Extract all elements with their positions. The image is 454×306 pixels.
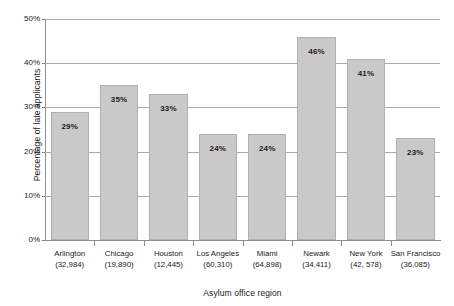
x-tick-mark xyxy=(292,241,293,246)
x-category-name: Arlington xyxy=(54,249,85,258)
x-category-count: (36,085) xyxy=(391,259,440,270)
x-category-count: (19,890) xyxy=(94,259,143,270)
plot-area: 29%35%33%24%24%46%41%23% xyxy=(45,19,440,240)
x-category-count: (12,445) xyxy=(144,259,193,270)
x-axis-category-labels: Arlington(32,984)Chicago(19,890)Houston(… xyxy=(45,248,440,280)
y-tick-label: 0% xyxy=(4,236,40,244)
y-tick-label: 40% xyxy=(4,59,40,67)
x-category-label: New York(42, 578) xyxy=(341,248,390,270)
bar-value-label: 33% xyxy=(150,104,186,113)
bar[interactable]: 33% xyxy=(149,94,187,240)
y-tick-label: 50% xyxy=(4,15,40,23)
x-category-name: New York xyxy=(349,249,382,258)
bar-value-label: 35% xyxy=(101,95,137,104)
x-category-count: (32,984) xyxy=(45,259,94,270)
bar-value-label: 23% xyxy=(397,148,433,157)
y-tick-label: 20% xyxy=(4,148,40,156)
x-category-name: Newark xyxy=(303,249,329,258)
x-category-name: Houston xyxy=(154,249,183,258)
bar-value-label: 24% xyxy=(249,144,285,153)
x-category-name: Los Angeles xyxy=(197,249,239,258)
y-tick-label: 30% xyxy=(4,103,40,111)
x-tick-mark xyxy=(243,241,244,246)
bar-slot: 29% xyxy=(51,19,89,240)
bar-value-label: 24% xyxy=(200,144,236,153)
x-category-name: San Francisco xyxy=(391,249,441,258)
bar-chart: Percentage of late applicants 0%10%20%30… xyxy=(0,0,454,306)
x-category-label: Arlington(32,984) xyxy=(45,248,94,270)
x-tick-mark xyxy=(144,241,145,246)
bar-slot: 35% xyxy=(100,19,138,240)
bar[interactable]: 24% xyxy=(199,134,237,240)
y-tick-label: 10% xyxy=(4,192,40,200)
x-axis-title: Asylum office region xyxy=(45,288,440,298)
x-category-count: (42, 578) xyxy=(341,259,390,270)
x-category-label: Chicago(19,890) xyxy=(94,248,143,270)
x-category-count: (64,898) xyxy=(243,259,292,270)
x-category-label: Los Angeles(60,310) xyxy=(193,248,242,270)
bar-value-label: 29% xyxy=(52,122,88,131)
bar-slot: 24% xyxy=(248,19,286,240)
bar-slot: 33% xyxy=(149,19,187,240)
x-category-name: Miami xyxy=(257,249,278,258)
bar-slot: 24% xyxy=(199,19,237,240)
x-tick-mark xyxy=(94,241,95,246)
bar[interactable]: 23% xyxy=(396,138,434,240)
bar-value-label: 46% xyxy=(298,47,334,56)
x-category-count: (60,310) xyxy=(193,259,242,270)
x-category-label: San Francisco(36,085) xyxy=(391,248,440,270)
x-tick-mark xyxy=(391,241,392,246)
x-category-label: Houston(12,445) xyxy=(144,248,193,270)
bar[interactable]: 24% xyxy=(248,134,286,240)
bar[interactable]: 29% xyxy=(51,112,89,240)
x-category-count: (34,411) xyxy=(292,259,341,270)
bar-value-label: 41% xyxy=(348,69,384,78)
x-tick-mark xyxy=(193,241,194,246)
x-tick-mark xyxy=(341,241,342,246)
bar-slot: 41% xyxy=(347,19,385,240)
bar[interactable]: 35% xyxy=(100,85,138,240)
bar-slot: 46% xyxy=(297,19,335,240)
x-category-label: Miami(64,898) xyxy=(243,248,292,270)
bar[interactable]: 41% xyxy=(347,59,385,240)
x-category-name: Chicago xyxy=(105,249,134,258)
bar-series: 29%35%33%24%24%46%41%23% xyxy=(45,19,440,240)
bar-slot: 23% xyxy=(396,19,434,240)
x-category-label: Newark(34,411) xyxy=(292,248,341,270)
bar[interactable]: 46% xyxy=(297,37,335,240)
